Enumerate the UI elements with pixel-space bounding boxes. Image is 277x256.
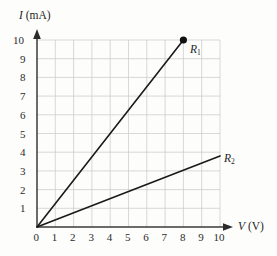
y-tick-label-10: 10 [13,35,24,46]
x-tick-label-9: 9 [198,232,204,243]
y-tick-label-2: 2 [20,185,26,196]
y-tick-label-5: 5 [20,129,26,140]
series-label-r2-symbol: R [224,152,231,164]
plot-canvas [0,0,277,256]
x-axis [37,223,233,231]
y-axis-title: I (mA) [19,10,51,22]
series-label-r1: R1 [190,44,201,56]
y-tick-label-1: 1 [20,203,26,214]
y-axis-symbol: I [19,9,23,21]
series-label-r2-subscript: 2 [231,157,235,166]
x-tick-label-2: 2 [70,232,76,243]
x-tick-label-5: 5 [125,232,131,243]
y-axis-arrow-icon [33,29,41,39]
y-tick-label-3: 3 [20,166,26,177]
x-tick-label-6: 6 [143,232,149,243]
x-tick-label-4: 4 [107,232,113,243]
y-axis-unit: (mA) [26,9,51,21]
x-tick-label-0: 0 [34,232,40,243]
x-tick-label-10: 10 [214,232,225,243]
x-tick-label-3: 3 [88,232,94,243]
x-tick-label-8: 8 [180,232,186,243]
x-axis-arrow-icon [223,223,233,231]
figure-container: I (mA) V (V) 10 9 8 7 6 5 4 3 2 1 0 1 2 … [0,0,277,256]
y-tick-label-6: 6 [20,110,26,121]
series-endpoint-marker-r1 [180,36,187,43]
y-tick-label-8: 8 [20,72,26,83]
x-tick-label-7: 7 [162,232,168,243]
series-label-r2: R2 [224,153,235,165]
y-tick-label-9: 9 [20,54,26,65]
x-axis-symbol: V [238,220,245,232]
x-axis-unit: (V) [248,220,264,232]
x-tick-label-1: 1 [52,232,58,243]
series-label-r1-subscript: 1 [197,48,201,57]
x-axis-title: V (V) [238,221,264,233]
y-tick-label-4: 4 [20,147,26,158]
series-label-r1-symbol: R [190,43,197,55]
y-tick-label-7: 7 [20,91,26,102]
